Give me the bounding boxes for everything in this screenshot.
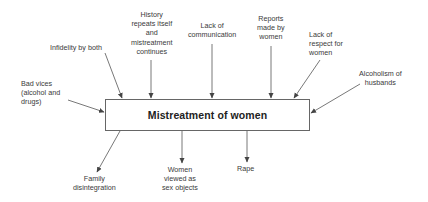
cause-lack-communication: Lack of communication bbox=[188, 21, 236, 39]
arrow-lack-respect bbox=[294, 60, 320, 98]
cause-history: History repeats itself and mistreatment … bbox=[131, 10, 173, 56]
effect-rape: Rape bbox=[237, 164, 254, 173]
cause-lack-respect: Lack of respect for women bbox=[309, 30, 343, 58]
cause-alcoholism: Alcoholism of husbands bbox=[359, 69, 402, 87]
arrow-alcoholism bbox=[311, 84, 360, 113]
cause-reports: Reports made by women bbox=[257, 14, 285, 42]
arrow-bad-vices bbox=[68, 100, 104, 112]
cause-infidelity: Infidelity by both bbox=[50, 43, 102, 52]
arrow-infidelity bbox=[105, 53, 122, 98]
cause-bad-vices: Bad vices (alcohol and drugs) bbox=[21, 79, 60, 107]
central-node-box: Mistreatment of women bbox=[105, 99, 310, 131]
effect-sex-objects: Women viewed as sex objects bbox=[162, 165, 198, 193]
arrow-family-disintegration bbox=[97, 131, 120, 172]
central-node-title: Mistreatment of women bbox=[148, 109, 267, 121]
effect-family-disintegration: Family disintegration bbox=[73, 174, 116, 192]
